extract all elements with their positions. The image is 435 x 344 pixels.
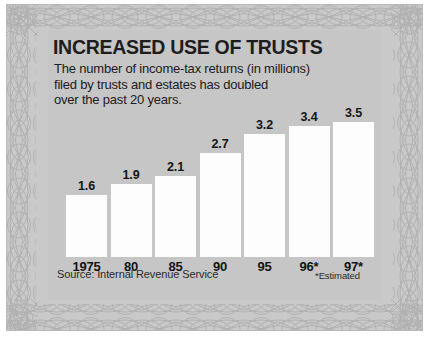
source-note: Source: Internal Revenue Service (57, 268, 218, 280)
infographic-figure: INCREASED USE OF TRUSTS The number of in… (0, 0, 435, 344)
subtitle-line-1: The number of income-tax returns (in mil… (54, 61, 314, 77)
subtitle-line-2: filed by trusts and estates has doubled (54, 77, 314, 93)
chart-title: INCREASED USE OF TRUSTS (53, 36, 322, 59)
chart-subtitle: The number of income-tax returns (in mil… (54, 61, 314, 108)
subtitle-line-3: over the past 20 years. (54, 92, 314, 108)
estimated-footnote: *Estimated (300, 270, 375, 281)
